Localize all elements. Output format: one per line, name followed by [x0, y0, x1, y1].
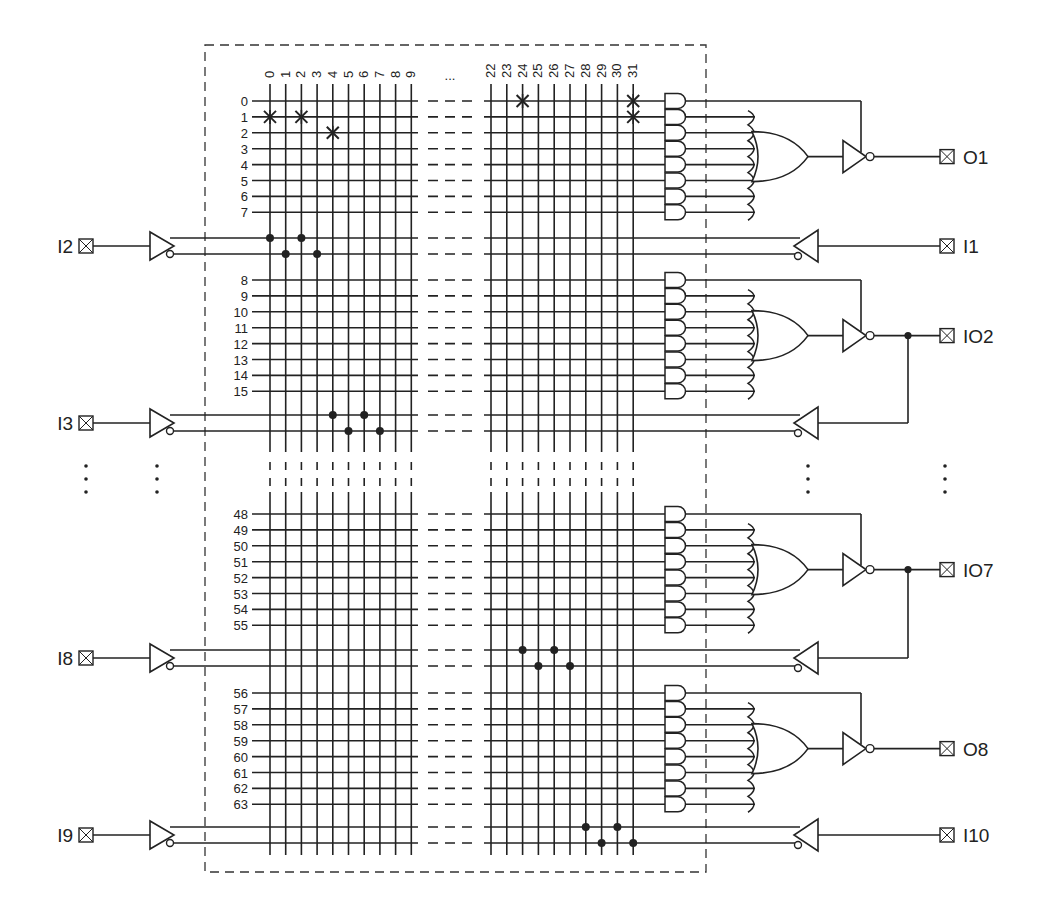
row-label: 7	[241, 205, 248, 220]
tristate-inverter-icon	[843, 554, 866, 586]
and-gate-icon	[665, 781, 686, 796]
connection-dot	[534, 662, 542, 670]
row-label: 1	[241, 110, 248, 125]
and-gate-icon	[665, 173, 686, 188]
and-gate-icon	[665, 570, 686, 585]
row-label: 4	[241, 158, 248, 173]
ellipsis-dot	[84, 490, 88, 494]
input-pin-label: I8	[57, 648, 73, 669]
row-label: 5	[241, 174, 248, 189]
and-gate-icon	[665, 205, 686, 220]
row-label: 12	[234, 337, 248, 352]
input-pin-label: I1	[963, 236, 979, 257]
inversion-bubble-icon	[795, 665, 802, 672]
or-gate-icon	[752, 724, 808, 774]
row-label: 63	[234, 797, 248, 812]
and-gate-icon	[665, 384, 686, 399]
output-pin-label: O8	[963, 739, 988, 760]
inversion-bubble-icon	[866, 745, 874, 753]
row-label: 15	[234, 384, 248, 399]
connection-dot	[376, 427, 384, 435]
and-gate-icon	[665, 141, 686, 156]
row-label: 9	[241, 289, 248, 304]
row-label: 3	[241, 142, 248, 157]
row-label: 60	[234, 750, 248, 765]
or-gate-icon	[752, 132, 808, 182]
and-gate-icon	[665, 733, 686, 748]
connection-dot	[360, 411, 368, 419]
input-pin-label: I10	[963, 825, 989, 846]
and-gate-icon	[665, 368, 686, 383]
row-label: 49	[234, 523, 248, 538]
ellipsis-dot	[806, 464, 810, 468]
column-label: 7	[372, 71, 387, 78]
and-gate-icon	[665, 765, 686, 780]
input-pin-icon	[79, 828, 93, 842]
and-gate-icon	[665, 288, 686, 303]
ellipsis-dot	[84, 477, 88, 481]
inversion-bubble-icon	[795, 842, 802, 849]
column-label: 30	[609, 64, 624, 78]
column-label: 24	[515, 64, 530, 78]
connection-dot	[282, 250, 290, 258]
output-pin-label: IO2	[963, 326, 994, 347]
row-label: 61	[234, 766, 248, 781]
row-label: 52	[234, 571, 248, 586]
connection-dot	[313, 250, 321, 258]
output-pin-label: O1	[963, 147, 988, 168]
connection-dot	[329, 411, 337, 419]
input-pin-label: I3	[57, 413, 73, 434]
pal-logic-diagram: 012345678922232425262728293031...0123456…	[0, 0, 1047, 914]
and-gate-icon	[665, 94, 686, 109]
connection-dot	[566, 662, 574, 670]
row-label: 2	[241, 126, 248, 141]
inversion-bubble-icon	[167, 663, 174, 670]
input-pin-label: I2	[57, 236, 73, 257]
or-gate-icon	[752, 311, 808, 361]
row-label: 55	[234, 618, 248, 633]
input-pin-label: I9	[57, 825, 73, 846]
row-label: 48	[234, 507, 248, 522]
column-label: 23	[499, 64, 514, 78]
ellipsis-dot	[84, 464, 88, 468]
row-label: 56	[234, 686, 248, 701]
inversion-bubble-icon	[866, 153, 874, 161]
column-label: 9	[403, 71, 418, 78]
column-label: 1	[278, 71, 293, 78]
and-gate-icon	[665, 538, 686, 553]
row-label: 62	[234, 781, 248, 796]
input-pin-icon	[79, 416, 93, 430]
and-gate-icon	[665, 554, 686, 569]
and-gate-icon	[665, 618, 686, 633]
row-label: 51	[234, 555, 248, 570]
column-label: 8	[388, 71, 403, 78]
tristate-inverter-icon	[843, 320, 866, 352]
column-label: 2	[293, 71, 308, 78]
ellipsis-dot	[155, 464, 159, 468]
ellipsis-dot	[155, 477, 159, 481]
column-label: 29	[594, 64, 609, 78]
row-label: 11	[235, 321, 249, 336]
output-pin-icon	[940, 563, 954, 577]
row-label: 13	[234, 353, 248, 368]
chip-boundary	[205, 45, 706, 872]
row-label: 57	[234, 702, 248, 717]
inversion-bubble-icon	[866, 332, 874, 340]
row-label: 14	[234, 368, 248, 383]
ellipsis-dot	[943, 490, 947, 494]
row-label: 58	[234, 718, 248, 733]
connection-dot	[297, 234, 305, 242]
connection-dot	[598, 839, 606, 847]
column-label: 25	[530, 64, 545, 78]
and-gate-icon	[665, 273, 686, 288]
and-gate-icon	[665, 109, 686, 124]
column-label: 3	[309, 71, 324, 78]
and-gate-icon	[665, 797, 686, 812]
and-gate-icon	[665, 125, 686, 140]
column-label: 28	[578, 64, 593, 78]
and-gate-icon	[665, 189, 686, 204]
column-label: 22	[483, 64, 498, 78]
column-label: 5	[341, 71, 356, 78]
connection-dot	[550, 646, 558, 654]
connection-dot	[519, 646, 527, 654]
